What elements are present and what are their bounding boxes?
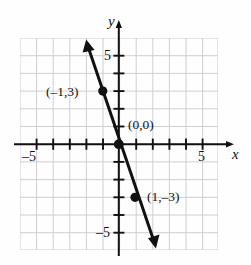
line-arrow-up [83, 40, 95, 53]
data-point [98, 87, 107, 96]
line-arrow-down [148, 234, 160, 248]
graph-canvas [0, 0, 251, 265]
y-tick-label-neg5: –5 [96, 226, 110, 240]
data-point [130, 193, 139, 202]
x-axis-label: x [232, 147, 239, 162]
data-point [114, 139, 124, 149]
point-label-neg1-3: (–1,3) [46, 85, 79, 99]
point-label-1-neg3: (1,–3) [147, 190, 180, 204]
y-axis-label: y [108, 14, 115, 29]
coordinate-plane-figure: x y –5 5 5 –5 (–1,3) (0,0) (1,–3) [0, 0, 251, 265]
point-label-origin: (0,0) [128, 118, 154, 132]
y-tick-label-pos5: 5 [104, 49, 111, 63]
x-axis [14, 141, 234, 147]
x-tick-label-pos5: 5 [198, 150, 205, 164]
x-tick-label-neg5: –5 [22, 150, 36, 164]
